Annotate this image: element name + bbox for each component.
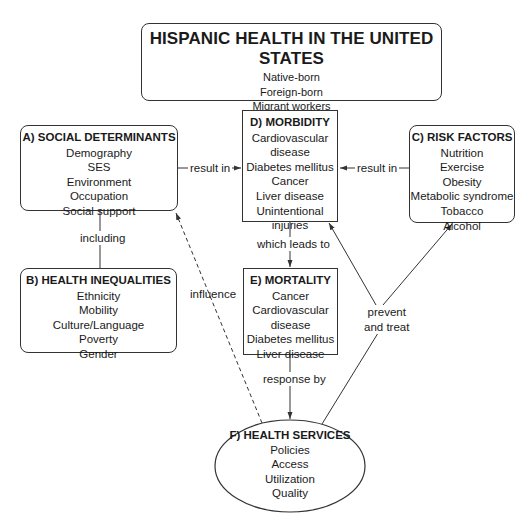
risk-factor-item: Metabolic syndrome bbox=[410, 189, 514, 204]
edge-label-c-to-d: result in bbox=[355, 161, 399, 175]
mortality-title: E) MORTALITY bbox=[244, 273, 337, 288]
determinant-item: SES bbox=[21, 160, 177, 175]
risk-factor-item: Alcohol bbox=[410, 219, 514, 234]
determinant-item: Social support bbox=[21, 204, 177, 219]
determinant-item: Demography bbox=[21, 146, 177, 161]
service-item: Utilization bbox=[215, 472, 365, 487]
morbidity-item: Liver disease bbox=[243, 189, 337, 204]
main-title: HISPANIC HEALTH IN THE UNITED STATES bbox=[142, 29, 441, 69]
population-item: Foreign-born bbox=[142, 85, 441, 100]
social-determinants-box: A) SOCIAL DETERMINANTS Demography SES En… bbox=[20, 125, 178, 211]
edge-label-e-to-f: response by bbox=[261, 372, 328, 386]
edge-label-f-to-a: influence bbox=[188, 287, 238, 301]
morbidity-item: Cardiovascular bbox=[243, 131, 337, 146]
risk-factors-title: C) RISK FACTORS bbox=[410, 130, 514, 145]
inequality-item: Culture/Language bbox=[21, 318, 176, 333]
edge-label-d-to-e: which leads to bbox=[255, 237, 332, 251]
inequality-item: Poverty bbox=[21, 332, 176, 347]
risk-factors-box: C) RISK FACTORS Nutrition Exercise Obesi… bbox=[409, 125, 515, 223]
morbidity-item: Diabetes mellitus bbox=[243, 160, 337, 175]
health-inequalities-box: B) HEALTH INEQUALITIES Ethnicity Mobilit… bbox=[20, 268, 177, 353]
edge-label-prevent: prevent bbox=[364, 305, 409, 320]
health-services-title: F) HEALTH SERVICES bbox=[215, 428, 365, 443]
risk-factor-item: Obesity bbox=[410, 175, 514, 190]
inequality-item: Mobility bbox=[21, 303, 176, 318]
arrow-fork-to-c bbox=[383, 224, 452, 305]
inequality-item: Ethnicity bbox=[21, 289, 176, 304]
risk-factor-item: Tobacco bbox=[410, 204, 514, 219]
risk-factor-item: Exercise bbox=[410, 160, 514, 175]
edge-label-a-to-b: including bbox=[78, 231, 127, 245]
morbidity-item: disease bbox=[243, 145, 337, 160]
edge-label-prevent-treat: prevent and treat bbox=[362, 305, 411, 334]
inequality-item: Gender bbox=[21, 347, 176, 362]
mortality-item: Diabetes mellitus bbox=[244, 332, 337, 347]
mortality-item: Liver disease bbox=[244, 347, 337, 362]
service-item: Policies bbox=[215, 443, 365, 458]
population-item: Native-born bbox=[142, 70, 441, 85]
health-services-text: F) HEALTH SERVICES Policies Access Utili… bbox=[215, 428, 365, 501]
morbidity-title: D) MORBIDITY bbox=[243, 115, 337, 130]
service-item: Access bbox=[215, 457, 365, 472]
morbidity-item: injuries bbox=[243, 218, 337, 233]
determinant-item: Environment bbox=[21, 175, 177, 190]
social-determinants-title: A) SOCIAL DETERMINANTS bbox=[21, 130, 177, 145]
mortality-item: Cardiovascular bbox=[244, 303, 337, 318]
morbidity-box: D) MORBIDITY Cardiovascular disease Diab… bbox=[242, 110, 338, 222]
service-item: Quality bbox=[215, 486, 365, 501]
edge-label-and-treat: and treat bbox=[364, 320, 409, 335]
mortality-box: E) MORTALITY Cancer Cardiovascular disea… bbox=[243, 268, 338, 355]
mortality-item: disease bbox=[244, 318, 337, 333]
morbidity-item: Unintentional bbox=[243, 204, 337, 219]
mortality-item: Cancer bbox=[244, 289, 337, 304]
edge-label-a-to-d: result in bbox=[188, 161, 232, 175]
main-title-box: HISPANIC HEALTH IN THE UNITED STATES Nat… bbox=[141, 23, 442, 101]
morbidity-item: Cancer bbox=[243, 174, 337, 189]
determinant-item: Occupation bbox=[21, 189, 177, 204]
health-inequalities-title: B) HEALTH INEQUALITIES bbox=[21, 273, 176, 288]
risk-factor-item: Nutrition bbox=[410, 146, 514, 161]
